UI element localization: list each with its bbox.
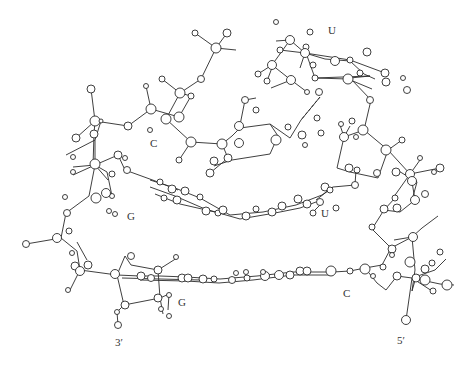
label-C-bottom: C <box>343 287 350 299</box>
label-U-mid: U <box>321 207 329 219</box>
atoms <box>23 20 453 329</box>
molecule-diagram: U C G U G C 3′ 5′ <box>0 0 470 365</box>
label-G-bottom: G <box>178 296 186 308</box>
label-C-left: C <box>150 137 157 149</box>
molecule-structure <box>0 0 470 365</box>
label-3-prime: 3′ <box>115 336 123 348</box>
label-G-left: G <box>127 210 135 222</box>
label-U-top: U <box>328 24 336 36</box>
bonds <box>26 33 454 325</box>
label-5-prime: 5′ <box>397 334 405 346</box>
